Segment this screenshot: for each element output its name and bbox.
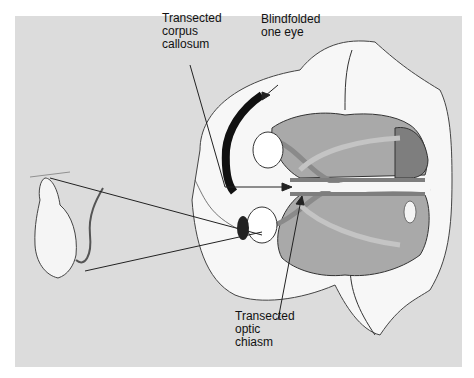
label-blindfolded-one-eye: Blindfolded one eye [261,13,320,39]
rat [30,172,103,278]
brain [270,113,430,276]
label-transected-optic-chiasm: Transected optic chiasm [235,310,295,349]
label-transected-corpus-callosum: Transected corpus callosum [162,12,222,51]
